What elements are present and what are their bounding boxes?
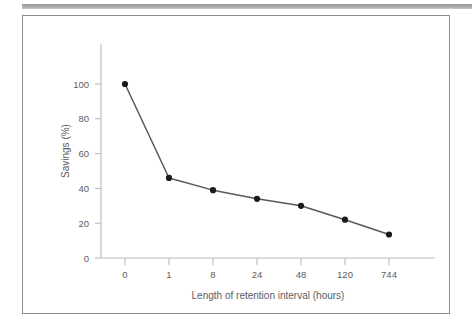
x-tick-label: 744 [381, 269, 397, 280]
x-axis-tick-labels: 0 1 8 24 48 120 744 [122, 269, 397, 280]
x-tick-label: 24 [252, 269, 263, 280]
x-axis-ticks [125, 258, 389, 265]
data-point [342, 217, 348, 223]
data-point [298, 203, 304, 209]
y-tick-label: 0 [84, 253, 89, 264]
data-point [122, 81, 128, 87]
x-tick-label: 1 [166, 269, 171, 280]
y-tick-label: 100 [73, 79, 89, 90]
x-tick-label: 120 [337, 269, 353, 280]
data-point [210, 187, 216, 193]
page-top-rule [22, 4, 472, 9]
x-tick-label: 8 [210, 269, 215, 280]
y-tick-label: 20 [78, 218, 89, 229]
line-chart: 0 20 40 60 80 100 0 1 8 24 [23, 16, 451, 315]
y-tick-label: 80 [78, 113, 89, 124]
y-axis-title: Savings (%) [60, 124, 71, 178]
data-series-markers [122, 81, 392, 238]
y-tick-label: 40 [78, 183, 89, 194]
chart-plot-area: 0 20 40 60 80 100 0 1 8 24 [23, 16, 451, 315]
y-axis-tick-labels: 0 20 40 60 80 100 [73, 79, 89, 264]
x-axis-title: Length of retention interval (hours) [192, 290, 345, 301]
data-series-line [125, 84, 389, 235]
y-axis-ticks [95, 84, 101, 258]
figure-container: 0 20 40 60 80 100 0 1 8 24 [22, 15, 450, 314]
x-tick-label: 0 [122, 269, 127, 280]
data-point [166, 175, 172, 181]
data-point [386, 231, 392, 237]
data-point [254, 196, 260, 202]
y-tick-label: 60 [78, 148, 89, 159]
x-tick-label: 48 [296, 269, 307, 280]
